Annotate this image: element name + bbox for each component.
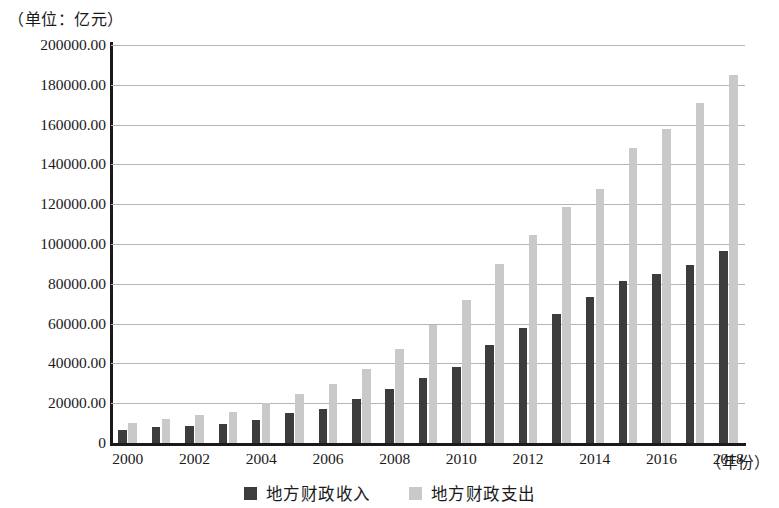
- x-axis-tick-label: 2008: [379, 450, 410, 468]
- bar-expenditure-2006: [329, 384, 338, 443]
- x-axis-tick-label: 2016: [646, 450, 677, 468]
- x-axis-tick-label: 2002: [179, 450, 210, 468]
- bar-revenue-2011: [485, 345, 494, 444]
- bar-revenue-2013: [552, 314, 561, 443]
- bar-expenditure-2008: [395, 349, 404, 443]
- bar-group: [485, 45, 504, 443]
- y-axis-tick-label: 200000.00: [2, 37, 106, 52]
- plot-area: [111, 45, 745, 443]
- bar-expenditure-2013: [562, 207, 571, 443]
- y-axis-tick-label: 120000.00: [2, 196, 106, 211]
- bar-group: [619, 45, 638, 443]
- bar-group: [452, 45, 471, 443]
- bar-expenditure-2010: [462, 300, 471, 443]
- bar-group: [319, 45, 338, 443]
- legend-item-revenue: 地方财政收入: [244, 481, 371, 505]
- bar-expenditure-2015: [629, 148, 638, 443]
- bar-group: [586, 45, 605, 443]
- bar-revenue-2002: [185, 426, 194, 443]
- bar-revenue-2000: [118, 430, 127, 443]
- bar-group: [519, 45, 538, 443]
- bar-revenue-2008: [385, 389, 394, 443]
- y-axis-tick-label: 160000.00: [2, 117, 106, 132]
- y-axis-tick-label: 180000.00: [2, 77, 106, 92]
- bar-expenditure-2001: [162, 419, 171, 443]
- bar-expenditure-2003: [229, 412, 238, 443]
- bar-expenditure-2004: [262, 403, 271, 443]
- bar-group: [252, 45, 271, 443]
- bar-expenditure-2014: [596, 189, 605, 443]
- y-axis-tick-label: 40000.00: [2, 355, 106, 370]
- chart-page: （单位：亿元） 200000.00180000.00160000.0014000…: [0, 0, 779, 508]
- bar-group: [419, 45, 438, 443]
- bar-expenditure-2017: [696, 103, 705, 443]
- bar-expenditure-2011: [495, 264, 504, 443]
- legend-label: 地方财政支出: [431, 481, 536, 505]
- bar-expenditure-2018: [729, 75, 738, 443]
- bar-revenue-2012: [519, 328, 528, 443]
- bar-group: [719, 45, 738, 443]
- y-axis-tick-label: 60000.00: [2, 316, 106, 331]
- bar-expenditure-2002: [195, 415, 204, 443]
- y-axis-tick-label: 140000.00: [2, 156, 106, 171]
- x-axis-tick-label: 2010: [446, 450, 477, 468]
- legend-swatch-icon: [409, 487, 422, 500]
- y-axis-unit-label: （单位：亿元）: [8, 6, 124, 30]
- bar-revenue-2017: [686, 265, 695, 443]
- bar-group: [385, 45, 404, 443]
- bar-revenue-2015: [619, 281, 628, 443]
- x-axis-tick-label: 2014: [579, 450, 610, 468]
- legend-item-expenditure: 地方财政支出: [409, 481, 536, 505]
- bar-group: [118, 45, 137, 443]
- y-axis-tick-label: 100000.00: [2, 236, 106, 251]
- x-axis-tick-labels: 2000200220042006200820102012201420162018: [111, 450, 745, 476]
- bar-revenue-2010: [452, 367, 461, 443]
- bar-group: [152, 45, 171, 443]
- bar-expenditure-2005: [295, 394, 304, 443]
- x-axis-tick-label: 2006: [312, 450, 343, 468]
- bar-group: [285, 45, 304, 443]
- bar-revenue-2001: [152, 427, 161, 443]
- bar-series-layer: [111, 45, 745, 443]
- x-axis-tick-label: 2004: [246, 450, 277, 468]
- bar-revenue-2009: [419, 378, 428, 443]
- bar-group: [185, 45, 204, 443]
- bar-revenue-2018: [719, 251, 728, 443]
- y-axis-tick-labels: 200000.00180000.00160000.00140000.001200…: [0, 45, 106, 443]
- bar-group: [552, 45, 571, 443]
- bar-group: [352, 45, 371, 443]
- x-axis-tick-label: 2000: [112, 450, 143, 468]
- x-axis-tick-label: 2012: [513, 450, 544, 468]
- bar-revenue-2006: [319, 409, 328, 443]
- bar-expenditure-2016: [662, 129, 671, 443]
- bar-revenue-2003: [219, 424, 228, 444]
- legend-swatch-icon: [244, 487, 257, 500]
- gridline: [111, 443, 745, 444]
- bar-revenue-2014: [586, 297, 595, 443]
- bar-expenditure-2012: [529, 235, 538, 443]
- y-axis-tick-label: 20000.00: [2, 395, 106, 410]
- bar-group: [219, 45, 238, 443]
- bar-expenditure-2000: [128, 423, 137, 443]
- x-axis-unit-label: （年份）: [706, 450, 770, 472]
- bar-group: [652, 45, 671, 443]
- y-axis-tick-label: 0: [2, 435, 106, 450]
- chart-legend: 地方财政收入地方财政支出: [0, 481, 779, 505]
- bar-group: [686, 45, 705, 443]
- legend-label: 地方财政收入: [266, 481, 371, 505]
- bar-expenditure-2009: [429, 325, 438, 443]
- bar-revenue-2004: [252, 420, 261, 443]
- bar-revenue-2016: [652, 274, 661, 443]
- bar-revenue-2007: [352, 399, 361, 443]
- bar-expenditure-2007: [362, 369, 371, 443]
- bar-revenue-2005: [285, 413, 294, 443]
- y-axis-tick-label: 80000.00: [2, 276, 106, 291]
